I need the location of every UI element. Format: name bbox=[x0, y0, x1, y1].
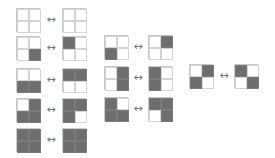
cell-bottom-right-empty bbox=[75, 81, 87, 93]
cell-bottom-right-filled bbox=[117, 79, 129, 91]
cell-top-right-filled bbox=[161, 36, 173, 48]
grid-right-2 bbox=[62, 68, 86, 92]
grid-left-1 bbox=[16, 36, 40, 60]
cell-bottom-left-filled bbox=[17, 111, 29, 123]
cell-top-right-empty bbox=[117, 98, 129, 110]
cell-top-right-empty bbox=[29, 9, 41, 21]
double-arrow-icon: ↔ bbox=[44, 135, 58, 145]
double-arrow-icon: ↔ bbox=[217, 71, 231, 81]
grid-right-0 bbox=[62, 8, 86, 32]
cell-top-left-filled bbox=[149, 67, 161, 79]
cell-top-right-filled bbox=[29, 99, 41, 111]
cell-bottom-right-empty bbox=[202, 77, 214, 89]
cell-top-left-filled bbox=[63, 129, 75, 141]
cell-bottom-right-filled bbox=[161, 110, 173, 122]
cell-bottom-left-filled bbox=[17, 81, 29, 93]
cell-top-left-empty bbox=[105, 36, 117, 48]
cell-top-right-empty bbox=[75, 37, 87, 49]
cell-top-right-empty bbox=[29, 69, 41, 81]
cell-bottom-right-empty bbox=[29, 21, 41, 33]
cell-top-right-filled bbox=[75, 69, 87, 81]
cell-top-left-filled bbox=[63, 99, 75, 111]
cell-top-left-empty bbox=[17, 37, 29, 49]
cell-bottom-right-filled bbox=[75, 141, 87, 153]
cell-top-left-empty bbox=[149, 36, 161, 48]
cell-bottom-right-filled bbox=[247, 77, 259, 89]
cell-top-right-filled bbox=[75, 99, 87, 111]
grid-right-8 bbox=[234, 64, 258, 88]
double-arrow-icon: ↔ bbox=[131, 42, 145, 52]
cell-top-left-filled bbox=[17, 129, 29, 141]
cell-top-left-filled bbox=[63, 69, 75, 81]
cell-top-left-empty bbox=[63, 9, 75, 21]
double-arrow-icon: ↔ bbox=[131, 73, 145, 83]
cell-top-left-filled bbox=[63, 37, 75, 49]
cell-bottom-left-empty bbox=[149, 110, 161, 122]
grid-right-1 bbox=[62, 36, 86, 60]
cell-top-right-empty bbox=[161, 67, 173, 79]
cell-bottom-left-empty bbox=[17, 21, 29, 33]
cell-top-right-filled bbox=[202, 65, 214, 77]
cell-bottom-left-filled bbox=[190, 77, 202, 89]
cell-bottom-left-empty bbox=[149, 48, 161, 60]
cell-top-right-empty bbox=[75, 9, 87, 21]
grid-left-7 bbox=[104, 97, 128, 121]
cell-bottom-left-empty bbox=[235, 77, 247, 89]
double-arrow-icon: ↔ bbox=[44, 43, 58, 53]
cell-top-left-filled bbox=[149, 98, 161, 110]
grid-right-5 bbox=[148, 35, 172, 59]
grid-left-5 bbox=[104, 35, 128, 59]
cell-bottom-left-filled bbox=[105, 48, 117, 60]
cell-top-right-empty bbox=[247, 65, 259, 77]
grid-left-6 bbox=[104, 66, 128, 90]
grid-left-3 bbox=[16, 98, 40, 122]
grid-left-0 bbox=[16, 8, 40, 32]
grid-right-3 bbox=[62, 98, 86, 122]
cell-top-left-filled bbox=[105, 98, 117, 110]
cell-top-left-empty bbox=[190, 65, 202, 77]
double-arrow-icon: ↔ bbox=[44, 15, 58, 25]
cell-bottom-right-filled bbox=[29, 141, 41, 153]
cell-bottom-right-filled bbox=[29, 49, 41, 61]
grid-left-8 bbox=[189, 64, 213, 88]
grid-right-7 bbox=[148, 97, 172, 121]
cell-bottom-right-filled bbox=[117, 110, 129, 122]
cell-bottom-right-empty bbox=[75, 111, 87, 123]
grid-right-6 bbox=[148, 66, 172, 90]
cell-top-left-empty bbox=[17, 9, 29, 21]
grid-right-4 bbox=[62, 128, 86, 152]
cell-top-right-filled bbox=[29, 129, 41, 141]
cell-top-right-empty bbox=[117, 36, 129, 48]
cell-top-right-filled bbox=[117, 67, 129, 79]
cell-bottom-left-filled bbox=[149, 79, 161, 91]
double-arrow-icon: ↔ bbox=[44, 75, 58, 85]
grid-left-4 bbox=[16, 128, 40, 152]
cell-bottom-left-empty bbox=[105, 79, 117, 91]
cell-bottom-left-filled bbox=[17, 141, 29, 153]
cell-bottom-left-empty bbox=[63, 81, 75, 93]
cell-bottom-right-filled bbox=[29, 111, 41, 123]
cell-top-left-empty bbox=[105, 67, 117, 79]
cell-top-left-empty bbox=[17, 99, 29, 111]
cell-bottom-left-filled bbox=[63, 141, 75, 153]
cell-bottom-left-filled bbox=[63, 111, 75, 123]
cell-bottom-right-empty bbox=[117, 48, 129, 60]
cell-bottom-right-filled bbox=[29, 81, 41, 93]
grid-left-2 bbox=[16, 68, 40, 92]
double-arrow-icon: ↔ bbox=[131, 104, 145, 114]
cell-bottom-right-empty bbox=[161, 79, 173, 91]
cell-bottom-right-empty bbox=[75, 49, 87, 61]
cell-top-left-empty bbox=[17, 69, 29, 81]
cell-bottom-left-empty bbox=[63, 21, 75, 33]
cell-top-right-filled bbox=[161, 98, 173, 110]
cell-bottom-left-empty bbox=[63, 49, 75, 61]
cell-top-right-empty bbox=[29, 37, 41, 49]
cell-bottom-right-empty bbox=[161, 48, 173, 60]
double-arrow-icon: ↔ bbox=[44, 105, 58, 115]
cell-bottom-left-filled bbox=[105, 110, 117, 122]
cell-bottom-right-empty bbox=[75, 21, 87, 33]
cell-top-right-filled bbox=[75, 129, 87, 141]
cell-bottom-left-empty bbox=[17, 49, 29, 61]
cell-top-left-filled bbox=[235, 65, 247, 77]
